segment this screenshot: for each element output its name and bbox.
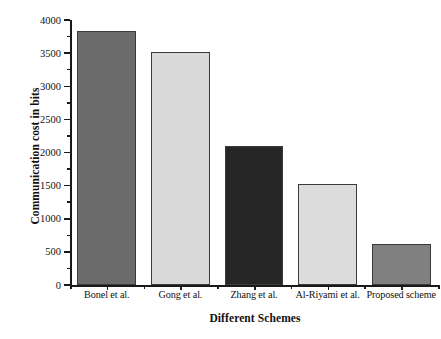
bar <box>77 31 136 285</box>
y-tick-mark <box>64 119 70 121</box>
y-tick-label: 1000 <box>40 211 61 226</box>
y-tick-label: 2500 <box>40 112 61 127</box>
bar <box>298 184 357 285</box>
x-axis-category-label: Zhang et al. <box>217 289 291 300</box>
y-tick-mark <box>67 135 71 137</box>
x-tick-minor <box>438 285 440 289</box>
bar <box>372 244 431 285</box>
x-tick-minor <box>70 285 72 289</box>
y-tick-mark <box>64 52 70 54</box>
x-axis-title: Different Schemes <box>70 312 440 324</box>
y-tick-mark <box>64 251 70 253</box>
bar <box>225 146 284 285</box>
bar-chart-figure: Communication cost in bits 0500100015002… <box>0 0 441 339</box>
y-tick-mark <box>67 69 71 71</box>
x-axis-category-label: Proposed scheme <box>364 289 438 300</box>
y-tick-mark <box>64 152 70 154</box>
y-tick-label: 4000 <box>40 13 61 28</box>
x-axis-category-label: Bonel et al. <box>70 289 144 300</box>
y-axis-line <box>70 20 72 285</box>
y-tick-mark <box>67 235 71 237</box>
y-tick-mark <box>67 201 71 203</box>
plot-area: 05001000150020002500300035004000 <box>70 20 438 285</box>
y-tick-label: 3000 <box>40 79 61 94</box>
x-tick-minor <box>291 285 293 289</box>
y-tick-mark <box>64 19 70 21</box>
y-tick-label: 3500 <box>40 46 61 61</box>
y-tick-label: 500 <box>45 244 61 259</box>
x-tick-minor <box>364 285 366 289</box>
x-tick-minor <box>217 285 219 289</box>
bar <box>151 52 210 285</box>
y-tick-label: 2000 <box>40 145 61 160</box>
y-tick-mark <box>64 218 70 220</box>
x-axis-category-label: Al-Riyami et al. <box>291 289 365 300</box>
y-tick-mark <box>67 168 71 170</box>
y-tick-label: 1500 <box>40 178 61 193</box>
y-tick-mark <box>67 102 71 104</box>
y-tick-mark <box>64 86 70 88</box>
y-tick-mark <box>67 36 71 38</box>
x-tick-minor <box>144 285 146 289</box>
y-tick-mark <box>64 185 70 187</box>
y-tick-label: 0 <box>56 278 61 293</box>
x-axis-category-label: Gong et al. <box>144 289 218 300</box>
y-tick-mark <box>67 268 71 270</box>
